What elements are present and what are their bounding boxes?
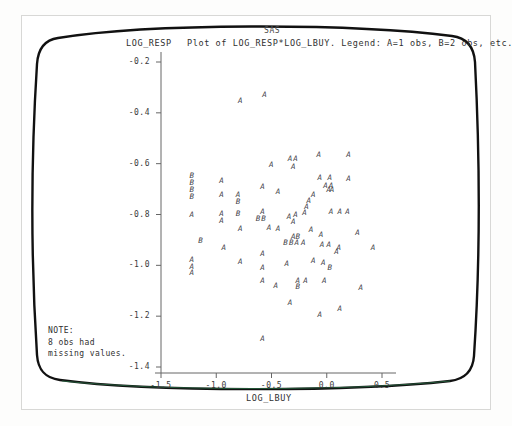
x-tick-label: -1.5	[141, 381, 181, 390]
data-marker-b: B	[328, 264, 333, 272]
data-marker-a: A	[346, 175, 351, 183]
data-marker-a: A	[326, 241, 331, 249]
data-marker-a: A	[269, 161, 274, 169]
data-marker-a: A	[276, 188, 281, 196]
plot-title: Plot of LOG_RESP*LOG_LBUY. Legend: A=1 o…	[187, 38, 512, 48]
data-marker-a: A	[219, 177, 224, 185]
data-marker-a: A	[329, 208, 334, 216]
data-marker-a: A	[321, 259, 326, 267]
data-marker-a: A	[219, 191, 224, 199]
data-marker-a: A	[301, 239, 306, 247]
data-marker-a: A	[189, 269, 194, 277]
data-marker-a: A	[221, 244, 226, 252]
sas-header-label: SAS	[264, 26, 280, 35]
data-marker-a: A	[346, 151, 351, 159]
data-marker-b: B	[236, 210, 241, 218]
data-marker-a: A	[262, 91, 267, 99]
x-tick-label: 0.5	[362, 381, 402, 390]
data-marker-a: A	[238, 97, 243, 105]
data-marker-a: A	[371, 244, 376, 252]
note-line-2: missing values.	[48, 348, 126, 360]
data-marker-a: A	[338, 305, 343, 313]
data-marker-a: A	[328, 174, 333, 182]
y-tick-label: -0.2	[110, 57, 150, 66]
y-tick-label: -0.6	[110, 159, 150, 168]
data-marker-a: A	[238, 258, 243, 266]
data-marker-a: A	[318, 174, 323, 182]
x-axis-title: LOG_LBUY	[246, 393, 292, 403]
data-marker-a: A	[260, 183, 265, 191]
data-marker-a: A	[334, 248, 339, 256]
plot-axes	[0, 0, 512, 426]
y-tick-label: -1.4	[110, 362, 150, 371]
y-axis-title: LOG_RESP	[126, 38, 172, 48]
note-line-1: 8 obs had	[48, 337, 126, 349]
plot-canvas: SAS LOG_RESP Plot of LOG_RESP*LOG_LBUY. …	[0, 0, 512, 426]
sas-plot-screenshot: SAS LOG_RESP Plot of LOG_RESP*LOG_LBUY. …	[0, 0, 512, 426]
data-marker-a: A	[303, 277, 308, 285]
data-marker-a: A	[276, 225, 281, 233]
data-marker-a: A	[189, 211, 194, 219]
note-block: NOTE: 8 obs had missing values.	[48, 325, 126, 360]
note-heading: NOTE:	[48, 325, 126, 337]
data-marker-a: A	[260, 335, 265, 343]
data-marker-a: A	[284, 260, 289, 268]
data-marker-b: B	[256, 215, 261, 223]
data-marker-a: A	[291, 218, 296, 226]
x-tick-label: -1.0	[196, 381, 236, 390]
data-marker-a: A	[318, 311, 323, 319]
data-marker-b: B	[296, 283, 301, 291]
data-marker-a: A	[311, 257, 316, 265]
data-marker-a: A	[219, 217, 224, 225]
x-tick-label: 0.0	[307, 381, 347, 390]
data-marker-a: A	[238, 225, 243, 233]
data-marker-a: A	[293, 211, 298, 219]
data-marker-b: B	[261, 215, 266, 223]
data-marker-a: A	[260, 250, 265, 258]
data-marker-a: A	[288, 299, 293, 307]
data-marker-a: A	[294, 239, 299, 247]
data-marker-a: A	[311, 191, 316, 199]
data-marker-a: A	[309, 226, 314, 234]
data-marker-a: A	[355, 229, 360, 237]
data-marker-a: A	[273, 282, 278, 290]
data-marker-a: A	[291, 163, 296, 171]
data-marker-b: B	[289, 239, 294, 247]
y-tick-label: -0.4	[110, 108, 150, 117]
y-tick-label: -1.0	[110, 260, 150, 269]
data-marker-b: B	[236, 198, 241, 206]
data-marker-a: A	[359, 284, 364, 292]
data-marker-a: A	[260, 277, 265, 285]
y-tick-label: -1.2	[110, 311, 150, 320]
data-marker-b: B	[189, 193, 194, 201]
data-marker-b: B	[283, 239, 288, 247]
data-marker-a: A	[317, 151, 322, 159]
data-marker-a: A	[302, 209, 307, 217]
x-tick-label: -0.5	[252, 381, 292, 390]
y-tick-label: -0.8	[110, 210, 150, 219]
data-marker-a: A	[330, 186, 335, 194]
data-marker-a: A	[345, 208, 350, 216]
data-marker-b: B	[198, 237, 203, 245]
data-marker-a: A	[267, 224, 272, 232]
data-marker-a: A	[319, 231, 324, 239]
data-marker-a: A	[320, 241, 325, 249]
data-marker-a: A	[322, 277, 327, 285]
data-marker-a: A	[338, 208, 343, 216]
data-marker-a: A	[260, 264, 265, 272]
